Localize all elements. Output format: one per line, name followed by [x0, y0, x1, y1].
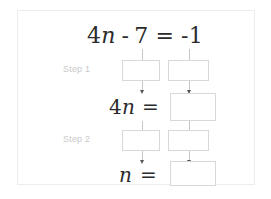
equation-right-side: -1	[174, 23, 203, 48]
result-row-2-expression: n=	[119, 163, 157, 187]
step-2-label: Step 2	[63, 134, 90, 144]
result1-answer-box[interactable]	[170, 93, 216, 121]
result-row-1-expression: 4n=	[109, 95, 159, 119]
result1-variable: n	[122, 95, 135, 119]
equation-variable: n	[101, 23, 115, 48]
step2-right-box[interactable]	[168, 130, 209, 151]
equation-coefficient: 4	[87, 23, 101, 48]
connector-rightside-to-step1-right	[189, 49, 190, 60]
result1-coefficient: 4	[109, 95, 122, 119]
equation-header: 4n-7=-1	[87, 23, 203, 48]
step1-right-box[interactable]	[168, 60, 209, 81]
worksheet-card: 4n-7=-1 Step 1 4n= Step 2 n=	[17, 10, 255, 185]
step2-left-box[interactable]	[122, 130, 160, 151]
result2-equals-sign: =	[132, 163, 157, 187]
result1-equals-sign: =	[135, 95, 159, 119]
step1-left-box[interactable]	[122, 60, 160, 81]
equation-constant: 7	[129, 23, 148, 48]
connector-result1-to-step2-left	[142, 121, 143, 130]
step-1-label: Step 1	[63, 64, 90, 74]
connector-result1-to-step2-right	[189, 121, 190, 130]
result2-variable: n	[119, 163, 132, 187]
arrow-step1-left-down-icon	[140, 90, 144, 94]
equation-operator: -	[116, 23, 130, 48]
result2-answer-box[interactable]	[170, 161, 216, 186]
connector-constant-to-step1-left	[142, 49, 143, 60]
equation-equals-sign: =	[148, 23, 174, 48]
